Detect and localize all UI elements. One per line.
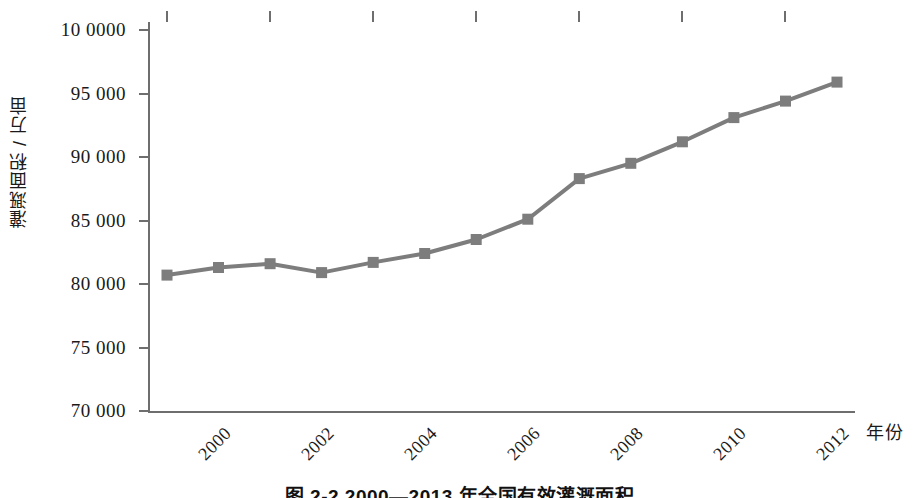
data-point-marker <box>625 158 636 169</box>
data-point-marker <box>677 136 688 147</box>
chart-page: 灌溉面积 / 万亩 70 00075 00080 00085 00090 000… <box>0 0 919 498</box>
y-axis-tick-label: 85 000 <box>71 210 126 232</box>
y-axis-tick <box>139 220 148 222</box>
y-axis-tick <box>139 29 148 31</box>
data-point-marker <box>419 248 430 259</box>
x-axis-tick <box>269 11 271 22</box>
series-polyline <box>167 82 837 275</box>
data-point-marker <box>213 262 224 273</box>
data-point-marker <box>574 173 585 184</box>
figure-caption: 图 2-2 2000—2013 年全国有效灌溉面积 <box>0 481 919 498</box>
x-axis-tick-label: 2000 <box>194 423 236 465</box>
data-point-marker <box>316 267 327 278</box>
x-axis-tick-label: 2004 <box>400 423 442 465</box>
y-axis-tick-label: 95 000 <box>71 83 126 105</box>
x-axis-title: 年份 <box>866 418 904 444</box>
y-axis-tick-label: 90 000 <box>71 146 126 168</box>
y-axis-tick <box>139 347 148 349</box>
data-point-marker <box>265 258 276 269</box>
y-axis-tick <box>139 93 148 95</box>
y-axis-tick-label: 75 000 <box>71 337 126 359</box>
x-axis-tick <box>166 11 168 22</box>
x-axis-tick <box>475 11 477 22</box>
data-point-marker <box>522 214 533 225</box>
data-point-marker <box>780 96 791 107</box>
x-axis-tick-label: 2006 <box>503 423 545 465</box>
x-axis-tick <box>784 11 786 22</box>
data-point-marker <box>471 234 482 245</box>
x-axis-tick <box>681 11 683 22</box>
y-axis-tick-label: 10 0000 <box>61 19 126 41</box>
data-point-marker <box>832 77 843 88</box>
x-axis-tick-label: 2010 <box>710 423 752 465</box>
x-axis-tick <box>372 11 374 22</box>
x-axis-tick-labels: 2000200220042006200820102012 <box>148 415 868 485</box>
data-point-marker <box>728 112 739 123</box>
plot-area <box>148 22 855 413</box>
y-axis-tick-labels: 70 00075 00080 00085 00090 00095 00010 0… <box>0 22 138 413</box>
x-axis-tick-label: 2012 <box>813 423 855 465</box>
x-axis-tick-label: 2002 <box>297 423 339 465</box>
y-axis-tick-label: 80 000 <box>71 273 126 295</box>
y-axis-tick <box>139 283 148 285</box>
series-line-irrigated-area <box>148 22 855 413</box>
data-point-marker <box>368 257 379 268</box>
y-axis-tick <box>139 156 148 158</box>
y-axis-tick <box>139 410 148 412</box>
y-axis-tick-label: 70 000 <box>71 400 126 422</box>
data-point-marker <box>162 270 173 281</box>
x-axis-tick <box>578 11 580 22</box>
x-axis-tick-label: 2008 <box>606 423 648 465</box>
